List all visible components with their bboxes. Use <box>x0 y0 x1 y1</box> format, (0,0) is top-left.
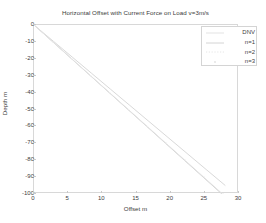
x-tick-mark <box>204 191 205 194</box>
y-axis-label: Depth m <box>1 84 8 124</box>
y-tick-mark <box>33 176 36 177</box>
legend-label: n=3 <box>245 58 255 64</box>
series-marker <box>166 143 167 144</box>
legend-box: DNVn=1n=2n=3 <box>201 26 257 66</box>
legend-label: n=1 <box>245 39 255 45</box>
y-tick-mark <box>33 58 36 59</box>
x-tick-mark <box>238 191 239 194</box>
x-tick-label: 30 <box>235 195 242 201</box>
x-tick-mark <box>67 191 68 194</box>
legend-label: DNV <box>242 29 255 35</box>
legend-item[interactable]: n=3 <box>202 57 258 67</box>
series-marker <box>204 176 205 177</box>
series-marker <box>185 160 186 161</box>
y-tick-mark <box>33 92 36 93</box>
y-tick-mark <box>33 24 36 25</box>
legend-sample-marker-icon <box>205 57 225 67</box>
series-marker <box>128 109 129 110</box>
y-tick-mark <box>33 41 36 42</box>
x-tick-label: 25 <box>200 195 207 201</box>
legend-item[interactable]: DNV <box>202 28 258 38</box>
x-tick-mark <box>136 191 137 194</box>
legend-sample-dotted-icon <box>205 47 225 57</box>
x-tick-label: 10 <box>98 195 105 201</box>
legend-item[interactable]: n=2 <box>202 47 258 57</box>
legend-item[interactable]: n=1 <box>202 38 258 48</box>
series-marker <box>223 193 224 194</box>
y-tick-mark <box>33 75 36 76</box>
x-tick-mark <box>33 191 34 194</box>
x-tick-label: 0 <box>31 195 34 201</box>
y-tick-mark <box>33 159 36 160</box>
chart-title: Horizontal Offset with Current Force on … <box>33 9 238 16</box>
x-tick-mark <box>101 191 102 194</box>
y-tick-mark <box>33 125 36 126</box>
legend-sample-line-icon <box>205 28 225 38</box>
x-tick-mark <box>170 191 171 194</box>
series-marker <box>71 58 72 59</box>
y-tick-mark <box>33 109 36 110</box>
series-marker <box>147 126 148 127</box>
series-line <box>34 25 225 186</box>
legend-label: n=2 <box>245 49 255 55</box>
figure-canvas: Horizontal Offset with Current Force on … <box>0 0 266 223</box>
series-marker <box>90 75 91 76</box>
x-tick-label: 20 <box>166 195 173 201</box>
y-tick-mark <box>33 193 36 194</box>
y-tick-mark <box>33 142 36 143</box>
series-marker <box>52 41 53 42</box>
x-axis-label: Offset m <box>33 205 238 212</box>
x-tick-label: 5 <box>65 195 68 201</box>
series-marker <box>109 92 110 93</box>
x-tick-label: 15 <box>132 195 139 201</box>
legend-sample-line-icon <box>205 38 225 48</box>
